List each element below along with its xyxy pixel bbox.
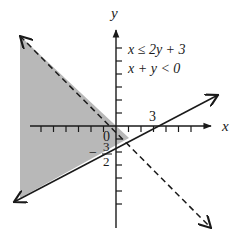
fraction-sign: −: [89, 145, 97, 160]
inequality-graph: y x 0 3 − 3 2 x ≤ 2y + 3 x + y < 0: [0, 0, 243, 238]
shaded-region: [20, 36, 129, 198]
x-tick-label-3: 3: [149, 109, 156, 124]
y-axis-label: y: [109, 5, 118, 21]
inequality-2-label: x + y < 0: [127, 61, 180, 76]
fraction-denominator: 2: [103, 154, 110, 169]
fraction-numerator: 3: [103, 139, 110, 154]
inequality-1-label: x ≤ 2y + 3: [127, 42, 186, 57]
x-axis-label: x: [221, 118, 229, 134]
